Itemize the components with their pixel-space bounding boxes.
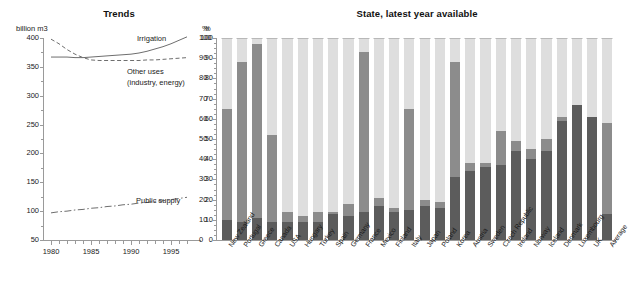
bar-segment-medium [601,123,613,214]
state-y-minor-tick [214,164,217,165]
state-y-tick-label: 20 [187,195,213,204]
state-y-minor-tick [214,114,217,115]
bar-segment-light [251,38,263,44]
state-y-minor-tick [214,89,217,90]
state-y-minor-tick [214,169,217,170]
bar-segment-dark [419,206,431,240]
state-y-minor-tick [214,144,217,145]
state-y-tick-label: 0 [187,235,213,244]
bar-segment-light [327,38,339,212]
bar-segment-light [281,38,293,212]
state-y-minor-tick [214,184,217,185]
bar-segment-light [266,38,278,135]
bar-column [601,38,613,240]
state-y-tick-mark [213,179,217,180]
bar-segment-light [221,38,233,109]
bar-segment-medium [556,117,568,121]
state-y-tick-label: 40 [187,154,213,163]
trends-line-irrigation [51,37,187,58]
bar-column [281,38,293,240]
bar-segment-light [510,38,522,141]
bar-segment-medium [464,163,476,171]
bar-column [556,38,568,240]
bar-segment-medium [495,131,507,165]
state-y-minor-tick [214,94,217,95]
state-y-tick-mark [213,240,217,241]
bar-column [251,38,263,240]
bar-segment-light [540,38,552,139]
bar-column [327,38,339,240]
bar-segment-light [525,38,537,149]
bar-column [221,38,233,240]
state-y-minor-tick [214,53,217,54]
state-y-minor-tick [214,134,217,135]
bar-column [236,38,248,240]
bar-segment-light [388,38,400,208]
state-y-minor-tick [214,124,217,125]
bar-segment-light [464,38,476,163]
state-y-minor-tick [214,235,217,236]
bar-segment-light [312,38,324,212]
bar-column [571,38,583,240]
state-y-minor-tick [214,225,217,226]
bar-segment-medium [358,52,370,212]
bar-segment-medium [525,149,537,159]
state-y-minor-tick [214,230,217,231]
bar-column [449,38,461,240]
state-y-minor-tick [214,43,217,44]
bar-column [434,38,446,240]
bar-segment-medium [236,62,248,222]
state-y-tick-mark [213,119,217,120]
trends-series-label: Other uses [127,67,164,76]
state-y-tick-label: 90 [187,53,213,62]
state-y-minor-tick [214,63,217,64]
bar-column [342,38,354,240]
state-y-minor-tick [214,174,217,175]
state-y-minor-tick [214,83,217,84]
bar-column [266,38,278,240]
state-y-minor-tick [214,205,217,206]
bar-column [373,38,385,240]
bar-segment-medium [434,202,446,208]
state-y-tick-label: 70 [187,94,213,103]
bar-column [403,38,415,240]
state-y-tick-label: 10 [187,215,213,224]
state-y-tick-mark [213,38,217,39]
bar-segment-medium [479,163,491,167]
state-y-tick-mark [213,58,217,59]
state-y-tick-label: 80 [187,73,213,82]
bar-segment-medium [221,109,233,220]
bar-segment-light [495,38,507,131]
bar-column [586,38,598,240]
bar-column [510,38,522,240]
state-y-tick-label: 30 [187,174,213,183]
bar-segment-light [236,38,248,62]
bar-segment-medium [266,135,278,222]
state-y-minor-tick [214,73,217,74]
bar-segment-light [571,38,583,105]
state-y-tick-mark [213,139,217,140]
state-y-minor-tick [214,149,217,150]
bar-segment-light [449,38,461,62]
bar-segment-light [479,38,491,163]
bar-segment-medium [419,200,431,206]
bar-segment-medium [449,62,461,177]
bar-column [495,38,507,240]
bar-segment-medium [281,212,293,222]
state-y-minor-tick [214,129,217,130]
bar-segment-light [434,38,446,202]
state-y-minor-tick [214,68,217,69]
bar-segment-medium [251,44,263,218]
state-y-tick-mark [213,99,217,100]
state-y-tick-label: 100 [187,33,213,42]
bar-column [358,38,370,240]
bar-segment-light [358,38,370,52]
bar-segment-medium [312,212,324,222]
state-y-tick-label: 50 [187,134,213,143]
bar-column [479,38,491,240]
bar-column [388,38,400,240]
state-y-minor-tick [214,48,217,49]
bar-segment-light [586,38,598,117]
trends-series-label: Irrigation [137,34,166,43]
